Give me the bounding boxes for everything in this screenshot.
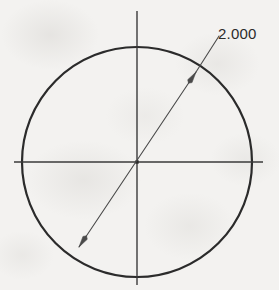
arrowhead-lower-left <box>77 234 89 248</box>
technical-drawing: 2.000 <box>0 0 279 290</box>
dimension-value-label: 2.000 <box>218 25 257 42</box>
arrowhead-upper-right <box>186 71 198 85</box>
drawing-canvas: 2.000 <box>0 0 279 290</box>
dimension-leader-line <box>196 36 219 72</box>
